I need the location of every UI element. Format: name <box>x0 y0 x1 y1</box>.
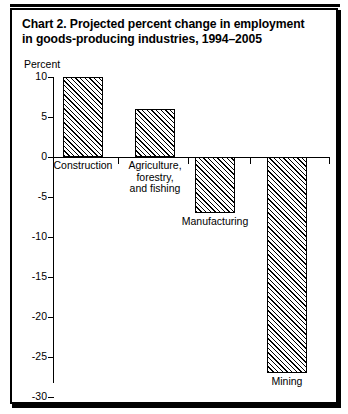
y-tick-label: 10 <box>14 70 47 82</box>
chart-figure: Chart 2. Projected percent change in emp… <box>0 0 348 414</box>
y-tick-mark <box>48 317 54 318</box>
y-tick-label: -25 <box>14 350 47 362</box>
y-tick-label: 5 <box>14 110 47 122</box>
y-tick-label: -10 <box>14 230 47 242</box>
y-tick-label: -5 <box>14 190 47 202</box>
category-label-line: and fishing <box>95 183 215 195</box>
y-tick-mark <box>48 157 54 158</box>
y-tick-label: -15 <box>14 270 47 282</box>
category-label-3: Mining <box>227 376 347 388</box>
y-tick-mark <box>48 397 54 398</box>
bar-3 <box>267 157 307 373</box>
y-tick-mark <box>48 197 54 198</box>
bar-0 <box>63 77 103 157</box>
category-label-line: Agriculture, <box>95 160 215 172</box>
y-axis-line <box>53 77 54 383</box>
y-tick-mark <box>48 277 54 278</box>
y-tick-mark <box>48 77 54 78</box>
category-tick-mark <box>329 158 330 164</box>
y-tick-label: -30 <box>14 390 47 402</box>
y-tick-mark <box>48 117 54 118</box>
y-axis-unit-label: Percent <box>24 58 60 70</box>
category-label-line: Mining <box>227 376 347 388</box>
y-tick-mark <box>48 237 54 238</box>
category-label-1: Agriculture,forestry,and fishing <box>95 160 215 195</box>
category-label-2: Manufacturing <box>155 216 275 228</box>
y-tick-mark <box>48 357 54 358</box>
category-label-line: Manufacturing <box>155 216 275 228</box>
bar-1 <box>135 109 175 157</box>
plot-area: Percent 1050-5-10-15-20-25-30 Constructi… <box>0 0 348 414</box>
y-tick-label: -20 <box>14 310 47 322</box>
category-tick-mark <box>250 158 251 164</box>
